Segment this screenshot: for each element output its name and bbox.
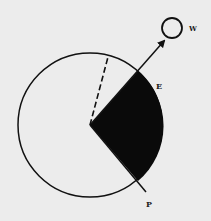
diagram-figure (0, 0, 211, 221)
shaded-sector (90, 71, 164, 181)
label-e: E (156, 82, 162, 90)
label-p: P (146, 200, 152, 208)
small-circle-w (162, 18, 182, 38)
label-w: W (189, 25, 197, 33)
diagram-canvas: W E P (0, 0, 211, 221)
